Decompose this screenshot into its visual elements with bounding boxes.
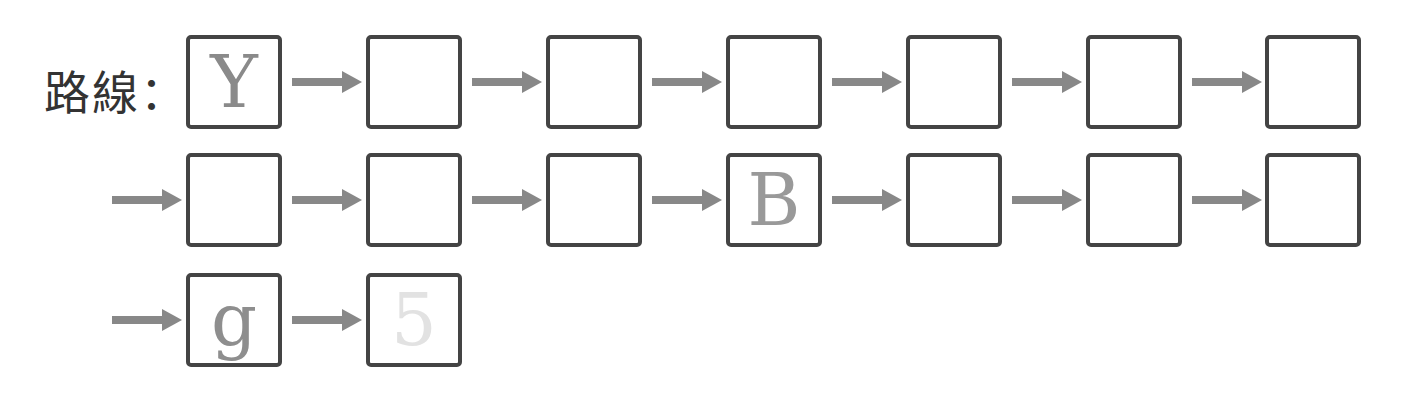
arrow-icon — [832, 189, 902, 211]
arrow-icon — [1192, 189, 1262, 211]
route-cell[interactable] — [906, 153, 1002, 247]
route-cell[interactable] — [1265, 153, 1361, 247]
arrow-icon — [472, 189, 542, 211]
arrow-icon — [832, 71, 902, 93]
route-cell[interactable] — [366, 153, 462, 247]
arrow-icon — [1012, 71, 1082, 93]
route-cell[interactable] — [546, 35, 642, 129]
route-cell[interactable] — [546, 153, 642, 247]
route-cell[interactable] — [366, 35, 462, 129]
arrow-icon — [1192, 71, 1262, 93]
route-cell[interactable] — [186, 153, 282, 247]
route-cell[interactable] — [726, 35, 822, 129]
arrow-icon — [1012, 189, 1082, 211]
arrow-icon — [472, 71, 542, 93]
route-label: 路線： — [44, 56, 188, 122]
arrow-icon — [292, 189, 362, 211]
arrow-icon — [652, 189, 722, 211]
route-cell[interactable] — [1086, 35, 1182, 129]
route-cell[interactable]: Y — [186, 35, 282, 129]
arrow-icon — [292, 71, 362, 93]
route-cell[interactable]: 5 — [366, 273, 462, 367]
arrow-icon — [112, 309, 182, 331]
arrow-icon — [292, 309, 362, 331]
arrow-icon — [112, 189, 182, 211]
route-cell[interactable] — [1086, 153, 1182, 247]
route-cell[interactable] — [1265, 35, 1361, 129]
arrow-icon — [652, 71, 722, 93]
route-cell[interactable] — [906, 35, 1002, 129]
route-cell[interactable]: g — [186, 273, 282, 367]
route-cell[interactable]: B — [726, 153, 822, 247]
